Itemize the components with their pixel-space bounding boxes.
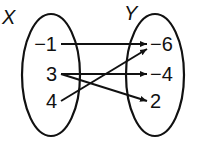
mapping-diagram: X Y −134 −6−42 bbox=[0, 0, 206, 147]
set-y-label: Y bbox=[124, 2, 139, 24]
range-value: 2 bbox=[150, 90, 161, 112]
range-value: −6 bbox=[150, 33, 173, 55]
range-value: −4 bbox=[150, 63, 173, 85]
domain-value: 3 bbox=[46, 63, 57, 85]
set-x-label: X bbox=[1, 6, 16, 28]
domain-value: 4 bbox=[46, 90, 57, 112]
mapping-arrow bbox=[61, 74, 147, 101]
domain-value: −1 bbox=[34, 33, 57, 55]
